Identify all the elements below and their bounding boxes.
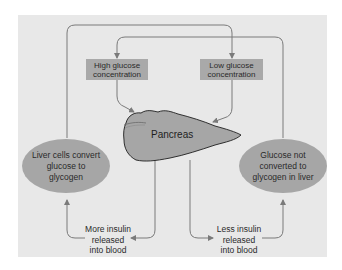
pancreas-label: Pancreas bbox=[151, 129, 193, 140]
arrow-low-glucose-to-pancreas bbox=[213, 80, 232, 122]
arrow-less-insulin-to-glucose-not-converted bbox=[262, 200, 283, 238]
less-insulin-label: Less insulin released into blood bbox=[213, 224, 265, 256]
low-glucose-box: Low glucose concentration bbox=[200, 59, 263, 80]
glucose-not-converted-label: Glucose not converted to glycogen in liv… bbox=[239, 142, 327, 190]
liver-convert-label: Liver cells convert glucose to glycogen bbox=[22, 142, 110, 190]
arrow-pancreas-to-more-insulin bbox=[131, 160, 155, 238]
high-glucose-box: High glucose concentration bbox=[86, 59, 148, 80]
more-insulin-label: More insulin released into blood bbox=[82, 224, 134, 256]
arrow-pancreas-to-less-insulin bbox=[190, 160, 213, 238]
arrow-high-glucose-to-pancreas bbox=[117, 80, 134, 112]
